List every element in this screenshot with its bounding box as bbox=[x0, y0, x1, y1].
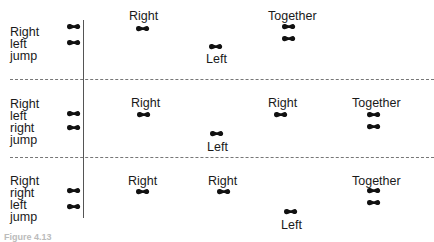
footprint-icon bbox=[283, 208, 298, 215]
row-1-sequence: Right left jump bbox=[10, 26, 39, 62]
step-label: Right bbox=[128, 175, 157, 187]
footprint-icon bbox=[366, 123, 381, 130]
footprint-icon bbox=[66, 23, 81, 30]
step-label: Right bbox=[129, 10, 158, 22]
footprint-icon bbox=[209, 130, 224, 137]
footprint-icon bbox=[281, 35, 296, 42]
footprint-icon bbox=[281, 23, 296, 30]
step-label: Right bbox=[208, 175, 237, 187]
row-divider bbox=[10, 157, 434, 158]
footprint-icon bbox=[66, 203, 81, 210]
step-label: Left bbox=[281, 219, 302, 231]
step-label: Right bbox=[131, 97, 160, 109]
figure-caption: Figure 4.13 bbox=[4, 232, 52, 242]
footprint-icon bbox=[208, 43, 223, 50]
row-2-seq-word: jump bbox=[10, 134, 39, 146]
step-label: Left bbox=[206, 53, 227, 65]
row-3-sequence: Right right left jump bbox=[10, 175, 39, 223]
footprint-icon bbox=[66, 124, 81, 131]
row-divider bbox=[10, 79, 434, 80]
step-label: Together bbox=[352, 175, 401, 187]
footprint-icon bbox=[366, 111, 381, 118]
footprint-icon bbox=[273, 111, 288, 118]
step-label: Together bbox=[352, 97, 401, 109]
start-line bbox=[83, 20, 84, 218]
footprint-icon bbox=[135, 188, 150, 195]
footprint-icon bbox=[66, 187, 81, 194]
step-label: Left bbox=[207, 141, 228, 153]
footprint-icon bbox=[366, 187, 381, 194]
footprint-icon bbox=[366, 199, 381, 206]
row-2-sequence: Right left right jump bbox=[10, 98, 39, 146]
footprint-icon bbox=[136, 111, 151, 118]
footprint-icon bbox=[66, 39, 81, 46]
row-3-seq-word: jump bbox=[10, 211, 39, 223]
footprint-icon bbox=[216, 188, 231, 195]
step-label: Together bbox=[268, 10, 317, 22]
step-label: Right bbox=[268, 97, 297, 109]
footprint-icon bbox=[135, 25, 150, 32]
footprint-icon bbox=[66, 110, 81, 117]
row-1-seq-word: jump bbox=[10, 50, 39, 62]
